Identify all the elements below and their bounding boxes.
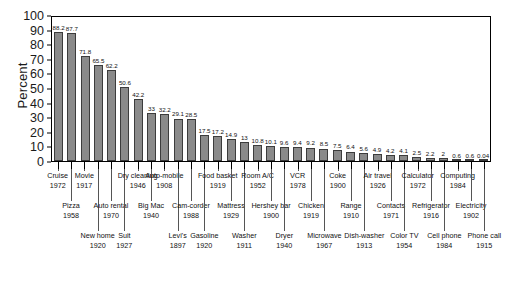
x-axis-tick-mark xyxy=(404,162,405,169)
bar-slot: 88.2 xyxy=(52,17,65,161)
x-tick-slot xyxy=(78,162,91,169)
label-leader-line xyxy=(351,169,352,201)
bar-slot: 2 xyxy=(437,17,450,161)
x-axis-tick-marks xyxy=(51,162,491,169)
label-leader-line xyxy=(311,169,312,201)
x-tick-slot xyxy=(384,162,397,169)
x-axis-tick-mark xyxy=(471,162,472,169)
x-axis-tick-mark xyxy=(71,162,72,169)
x-axis-tick-mark xyxy=(164,162,165,169)
x-tick-slot xyxy=(411,162,424,169)
x-axis-tick-mark xyxy=(351,162,352,169)
bar-slot: 2.5 xyxy=(410,17,423,161)
bar xyxy=(373,154,382,161)
bar-slot: 32.2 xyxy=(158,17,171,161)
bar-value-label: 9.4 xyxy=(293,140,302,146)
bar xyxy=(67,33,76,161)
bar-slot: 4.1 xyxy=(397,17,410,161)
x-axis-tick-mark xyxy=(191,162,192,169)
bar-slot: 17.2 xyxy=(211,17,224,161)
bar-value-label: 0.6 xyxy=(466,153,475,159)
x-tick-slot xyxy=(64,162,77,169)
x-tick-slot xyxy=(478,162,491,169)
category-label-text: Suit1927 xyxy=(101,229,147,250)
y-axis-tick-label: 0 xyxy=(18,156,44,169)
bar xyxy=(333,150,342,161)
category-name: Computing xyxy=(435,171,481,181)
x-tick-slot xyxy=(91,162,104,169)
x-tick-slot xyxy=(398,162,411,169)
bar-value-label: 88.2 xyxy=(53,25,65,31)
y-axis-tick-label: 20 xyxy=(18,127,44,140)
bar xyxy=(107,70,116,161)
bar xyxy=(253,145,262,161)
bar-slot: 62.2 xyxy=(105,17,118,161)
bar-value-label: 4.2 xyxy=(386,148,395,154)
x-axis-tick-mark xyxy=(218,162,219,169)
x-axis-tick-mark xyxy=(391,162,392,169)
bar-value-label: 2.2 xyxy=(426,151,435,157)
bar xyxy=(399,155,408,161)
y-axis-tick-label: 50 xyxy=(18,83,44,96)
bar xyxy=(319,149,328,161)
label-leader-line xyxy=(191,169,192,201)
category-name: Movie xyxy=(61,171,107,181)
x-tick-slot xyxy=(331,162,344,169)
y-axis-tick-label: 100 xyxy=(18,10,44,23)
x-tick-slot xyxy=(291,162,304,169)
bar xyxy=(359,153,368,161)
bar-slot: 0.6 xyxy=(463,17,476,161)
category-year: 1927 xyxy=(101,241,147,251)
label-leader-line xyxy=(471,169,472,201)
x-axis-tick-mark xyxy=(431,162,432,169)
label-leader-line xyxy=(431,169,432,201)
x-tick-slot xyxy=(131,162,144,169)
bar-value-label: 8.5 xyxy=(320,141,329,147)
x-tick-slot xyxy=(198,162,211,169)
bar-value-label: 10.8 xyxy=(252,138,264,144)
x-tick-slot xyxy=(304,162,317,169)
bar xyxy=(174,119,183,161)
y-axis-tick-labels: 0102030405060708090100 xyxy=(18,0,44,284)
label-leader-line xyxy=(231,169,232,201)
x-tick-slot xyxy=(251,162,264,169)
x-axis-tick-mark xyxy=(124,162,125,169)
bar-slot: 4.2 xyxy=(384,17,397,161)
bar-slot: 33 xyxy=(145,17,158,161)
bar-slot: 4.9 xyxy=(370,17,383,161)
category-label-text: Auto-mobile1908 xyxy=(141,169,187,190)
x-axis-tick-mark xyxy=(324,162,325,169)
bar xyxy=(81,56,90,161)
bar-slot: 0.04 xyxy=(477,17,490,161)
bar xyxy=(293,147,302,161)
x-axis-tick-mark xyxy=(178,162,179,169)
category-label-text: Phone call1915 xyxy=(461,229,506,250)
category-year: 1908 xyxy=(141,181,187,191)
bar xyxy=(94,65,103,161)
bar-slot: 65.5 xyxy=(92,17,105,161)
bar xyxy=(452,159,461,161)
x-axis-category-labels: Cruise1972Pizza1958Movie1917New home1920… xyxy=(51,169,491,284)
bar-slot: 13 xyxy=(238,17,251,161)
bar xyxy=(147,113,156,161)
x-tick-slot xyxy=(278,162,291,169)
x-axis-tick-mark xyxy=(271,162,272,169)
bar xyxy=(134,99,143,161)
bar-slot: 10.8 xyxy=(251,17,264,161)
bar-value-label: 71.8 xyxy=(79,49,91,55)
x-axis-tick-mark xyxy=(111,162,112,169)
bar-value-label: 2.5 xyxy=(412,150,421,156)
x-axis-tick-mark xyxy=(58,162,59,169)
category-label: Movie1917 xyxy=(61,169,107,190)
bar-slot: 6.4 xyxy=(344,17,357,161)
bar-slot: 9.4 xyxy=(291,17,304,161)
category-label-text: Electricity1902 xyxy=(448,199,494,220)
bar xyxy=(213,136,222,161)
label-leader-line xyxy=(111,169,112,201)
bar xyxy=(120,87,129,161)
bar-slot: 17.5 xyxy=(198,17,211,161)
category-name: Suit xyxy=(101,231,147,241)
bar-value-label: 4.9 xyxy=(373,147,382,153)
bar xyxy=(240,142,249,161)
x-tick-slot xyxy=(211,162,224,169)
